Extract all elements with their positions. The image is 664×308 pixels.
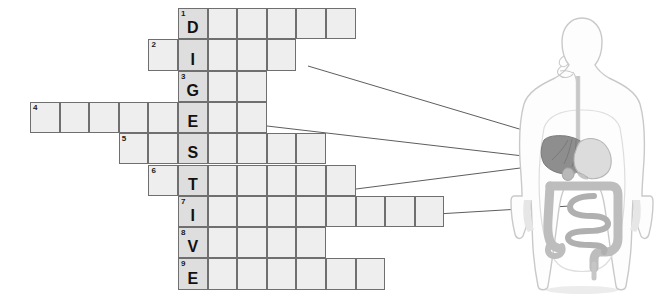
crossword-cell[interactable] (237, 165, 267, 196)
crossword-cell[interactable] (415, 196, 445, 227)
crossword-cell[interactable]: 6 (148, 165, 178, 196)
crossword-grid: 1D2I3G4E5S6T7I8V9E (0, 0, 500, 308)
crossword-cell-spine[interactable]: 7I (178, 196, 208, 227)
crossword-cell[interactable] (296, 196, 326, 227)
crossword-cell[interactable] (326, 165, 356, 196)
crossword-cell[interactable] (356, 196, 386, 227)
crossword-cell-spine[interactable]: 1D (178, 8, 208, 39)
crossword-cell-spine[interactable]: S (178, 133, 208, 164)
clue-number: 1 (181, 9, 185, 18)
crossword-cell[interactable] (267, 133, 297, 164)
crossword-cell[interactable] (89, 102, 119, 133)
crossword-cell[interactable] (237, 8, 267, 39)
gallbladder (562, 168, 574, 181)
crossword-cell[interactable] (237, 196, 267, 227)
crossword-cell[interactable] (237, 258, 267, 289)
spine-letter: E (179, 113, 207, 130)
crossword-cell[interactable] (326, 258, 356, 289)
crossword-cell[interactable] (296, 165, 326, 196)
clue-number: 6 (151, 166, 155, 175)
crossword-cell[interactable] (208, 165, 238, 196)
crossword-cell[interactable] (385, 196, 415, 227)
crossword-cell-spine[interactable]: T (178, 165, 208, 196)
crossword-cell[interactable] (326, 8, 356, 39)
crossword-cell[interactable] (267, 8, 297, 39)
crossword-cell[interactable] (237, 227, 267, 258)
crossword-cell[interactable]: 5 (119, 133, 149, 164)
clue-number: 9 (181, 259, 185, 268)
crossword-cell[interactable] (119, 102, 149, 133)
crossword-cell[interactable] (208, 227, 238, 258)
crossword-cell-spine[interactable]: I (178, 39, 208, 70)
crossword-cell[interactable] (208, 71, 238, 102)
crossword-cell-spine[interactable]: 8V (178, 227, 208, 258)
spine-letter: T (179, 176, 207, 193)
crossword-worksheet: 1D2I3G4E5S6T7I8V9E (0, 0, 664, 308)
crossword-cell[interactable] (208, 196, 238, 227)
spine-letter: G (179, 82, 207, 99)
spine-letter: I (179, 51, 207, 68)
crossword-cell[interactable] (267, 196, 297, 227)
crossword-cell[interactable] (208, 258, 238, 289)
crossword-cell[interactable] (267, 227, 297, 258)
crossword-cell[interactable] (60, 102, 90, 133)
crossword-cell[interactable] (326, 196, 356, 227)
clue-number: 5 (122, 134, 126, 143)
clue-number: 4 (33, 103, 37, 112)
clue-number: 2 (151, 40, 155, 49)
crossword-cell[interactable] (208, 8, 238, 39)
small-intestine (568, 196, 608, 252)
clue-number: 7 (181, 197, 185, 206)
clue-number: 3 (181, 72, 185, 81)
crossword-cell[interactable] (148, 102, 178, 133)
crossword-cell[interactable] (296, 258, 326, 289)
crossword-cell[interactable] (267, 258, 297, 289)
crossword-cell-spine[interactable]: E (178, 102, 208, 133)
spine-letter: I (179, 207, 207, 224)
crossword-cell[interactable] (148, 133, 178, 164)
crossword-cell[interactable] (208, 102, 238, 133)
crossword-cell[interactable] (237, 39, 267, 70)
crossword-cell[interactable] (208, 133, 238, 164)
crossword-cell-spine[interactable]: 9E (178, 258, 208, 289)
crossword-cell[interactable] (296, 227, 326, 258)
clue-number: 8 (181, 228, 185, 237)
crossword-cell[interactable] (237, 71, 267, 102)
ground-shadow (546, 286, 618, 294)
spine-letter: E (179, 270, 207, 287)
spine-letter: V (179, 238, 207, 255)
crossword-cell[interactable] (356, 258, 386, 289)
crossword-cell[interactable] (237, 133, 267, 164)
crossword-cell[interactable]: 2 (148, 39, 178, 70)
crossword-cell[interactable] (267, 165, 297, 196)
crossword-cell[interactable] (208, 39, 238, 70)
crossword-cell[interactable] (296, 8, 326, 39)
crossword-cell[interactable] (267, 39, 297, 70)
spine-letter: S (179, 144, 207, 161)
crossword-cell[interactable] (237, 102, 267, 133)
crossword-cell[interactable]: 4 (30, 102, 60, 133)
crossword-cell-spine[interactable]: 3G (178, 71, 208, 102)
digestive-system-figure (500, 0, 664, 308)
spine-letter: D (179, 19, 207, 36)
crossword-cell[interactable] (296, 133, 326, 164)
